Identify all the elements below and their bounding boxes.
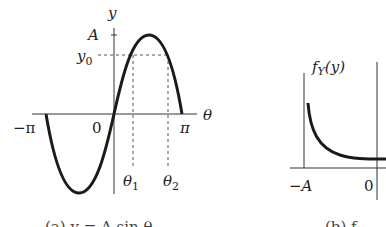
panel-a-sine-plot: y A y0 −π 0 π θ θ1 θ2 (a) y = A sin θ <box>13 4 212 227</box>
caption-a: (a) y = A sin θ <box>45 218 153 227</box>
pi-label: π <box>179 119 191 137</box>
panel-b-pdf-plot: fY(y) −A 0 (b) f <box>289 58 386 227</box>
y0-label: y0 <box>76 47 92 68</box>
y-axis-label: y <box>107 4 117 22</box>
zero-label-b: 0 <box>364 177 374 195</box>
zero-label-a: 0 <box>92 119 102 137</box>
fy-label: fY(y) <box>311 58 345 78</box>
pdf-curve <box>308 103 386 159</box>
theta1-label: θ1 <box>123 172 139 193</box>
theta2-label: θ2 <box>163 172 179 193</box>
neg-pi-label: −π <box>13 119 36 137</box>
figure: y A y0 −π 0 π θ θ1 θ2 (a) y = A sin θ fY… <box>0 0 386 227</box>
theta-axis-label: θ <box>203 106 212 124</box>
caption-b: (b) f <box>325 218 358 227</box>
a-label: A <box>86 26 99 44</box>
neg-a-label: −A <box>289 177 313 195</box>
